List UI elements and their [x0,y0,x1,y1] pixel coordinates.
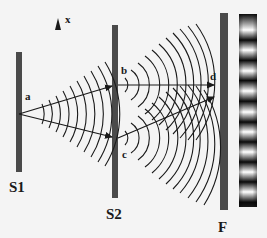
point-b-label: b [121,64,127,76]
point-d-label: d [210,70,216,82]
double-slit-diagram: x [0,0,267,238]
diagram-svg: x [0,0,267,238]
wavefronts-from-a [42,62,120,166]
barrier-s1 [16,52,22,172]
x-axis-label: x [65,13,71,25]
point-a-label: a [25,90,31,102]
screen-f-label: F [218,219,227,235]
barrier-s2 [112,25,118,198]
interference-fringe-pattern [239,14,257,207]
barrier-s2-label: S2 [106,206,122,222]
ray-a-to-c [19,114,112,137]
wavefronts-from-b [125,24,215,140]
barrier-s1-label: S1 [9,179,25,195]
x-direction-arrow-icon [55,18,61,30]
point-c-label: c [122,148,127,160]
wavefronts-from-c [125,85,221,205]
ray-a-to-b [19,86,112,114]
screen-f [220,13,228,210]
